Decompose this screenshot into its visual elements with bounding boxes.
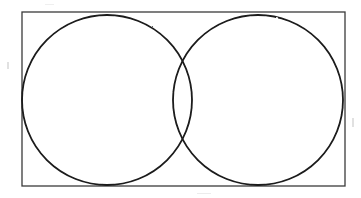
figure-container (0, 0, 361, 198)
geometry-diagram (0, 0, 361, 198)
